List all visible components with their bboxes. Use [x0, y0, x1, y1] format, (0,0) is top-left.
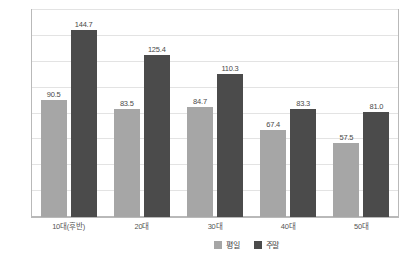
bar: 125.4 [144, 55, 170, 217]
legend-label: 주말 [266, 239, 280, 250]
bar-chart: 020406080100120140160 90.5144.783.5125.4… [0, 0, 407, 261]
bar-value-label: 90.5 [47, 90, 61, 99]
legend-swatch-icon [254, 241, 262, 249]
bar-value-label: 144.7 [75, 20, 93, 29]
bar: 110.3 [217, 74, 243, 217]
bar: 67.4 [260, 130, 286, 217]
bar-group: 83.5125.4 [105, 10, 178, 217]
bar-value-label: 83.3 [296, 99, 310, 108]
legend-item[interactable]: 주말 [254, 239, 280, 250]
bar-column: 110.3 [217, 10, 243, 217]
bar-column: 57.5 [333, 10, 359, 217]
legend-item[interactable]: 평일 [214, 239, 240, 250]
bar-value-label: 67.4 [266, 120, 280, 129]
bar-column: 125.4 [144, 10, 170, 217]
bar: 83.3 [290, 109, 316, 217]
bar-column: 83.5 [114, 10, 140, 217]
x-category-label: 50대 [354, 220, 369, 231]
bar: 57.5 [333, 143, 359, 217]
x-category-label: 30대 [208, 220, 223, 231]
legend-swatch-icon [214, 241, 222, 249]
bar: 90.5 [41, 100, 67, 217]
bar-groups: 90.5144.783.5125.484.7110.367.483.357.58… [32, 10, 398, 217]
bar: 84.7 [187, 107, 213, 217]
bar-value-label: 110.3 [221, 64, 238, 73]
bar: 144.7 [71, 30, 97, 217]
bar-value-label: 57.5 [339, 133, 353, 142]
legend-label: 평일 [226, 239, 240, 250]
bar-column: 67.4 [260, 10, 286, 217]
x-category-label: 20대 [134, 220, 149, 231]
bar-group: 57.581.0 [325, 10, 398, 217]
bar-column: 83.3 [290, 10, 316, 217]
bar-group: 90.5144.7 [32, 10, 105, 217]
bar: 83.5 [114, 109, 140, 217]
bar: 81.0 [363, 112, 389, 217]
bar-column: 84.7 [187, 10, 213, 217]
bar-column: 81.0 [363, 10, 389, 217]
bar-column: 144.7 [71, 10, 97, 217]
x-category-label: 40대 [281, 220, 296, 231]
bar-value-label: 81.0 [369, 102, 383, 111]
x-axis-category-labels: 10대(후반)20대30대40대50대 [32, 220, 398, 234]
bar-value-label: 84.7 [193, 97, 207, 106]
bar-group: 67.483.3 [252, 10, 325, 217]
bar-column: 90.5 [41, 10, 67, 217]
bar-group: 84.7110.3 [178, 10, 251, 217]
bar-value-label: 83.5 [120, 99, 134, 108]
x-category-label: 10대(후반) [52, 220, 85, 231]
bar-value-label: 125.4 [148, 45, 166, 54]
chart-legend: 평일주말 [214, 239, 279, 250]
